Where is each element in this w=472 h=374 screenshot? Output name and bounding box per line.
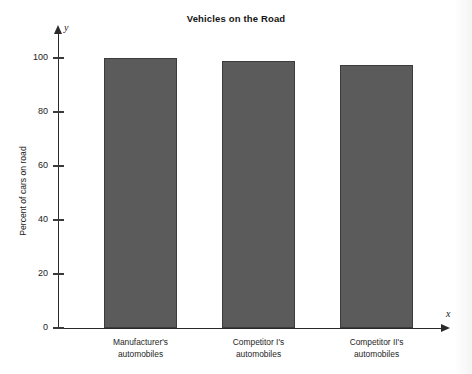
category-label-2: Competitor I'sautomobiles bbox=[196, 337, 322, 360]
y-axis-arrow-icon bbox=[54, 25, 62, 34]
y-axis-line bbox=[58, 33, 59, 328]
chart-title: Vehicles on the Road bbox=[0, 13, 472, 24]
y-tick-label-0: 0 bbox=[8, 322, 48, 332]
category-label-line: Competitor II's bbox=[314, 337, 440, 349]
bar-1 bbox=[104, 58, 177, 328]
y-tick-label-100: 100 bbox=[8, 52, 48, 62]
y-tick-label-60: 60 bbox=[8, 160, 48, 170]
bar-chart: Vehicles on the Road y x Percent of cars… bbox=[0, 0, 472, 374]
y-tick-60 bbox=[53, 165, 64, 166]
category-label-line: automobiles bbox=[78, 349, 204, 361]
y-tick-label-40: 40 bbox=[8, 214, 48, 224]
category-label-line: Manufacturer's bbox=[78, 337, 204, 349]
category-label-3: Competitor II'sautomobiles bbox=[314, 337, 440, 360]
y-tick-label-80: 80 bbox=[8, 106, 48, 116]
y-tick-label-20: 20 bbox=[8, 268, 48, 278]
y-tick-100 bbox=[53, 57, 64, 58]
category-label-line: automobiles bbox=[314, 349, 440, 361]
category-label-line: automobiles bbox=[196, 349, 322, 361]
y-tick-20 bbox=[53, 273, 64, 274]
y-axis-title: Percent of cars on road bbox=[18, 101, 28, 281]
x-axis-line bbox=[58, 328, 443, 329]
y-tick-40 bbox=[53, 219, 64, 220]
x-axis-marker: x bbox=[446, 308, 450, 319]
y-tick-0 bbox=[53, 327, 64, 328]
category-label-line: Competitor I's bbox=[196, 337, 322, 349]
bar-3 bbox=[340, 65, 413, 328]
y-tick-80 bbox=[53, 111, 64, 112]
category-label-1: Manufacturer'sautomobiles bbox=[78, 337, 204, 360]
y-axis-marker: y bbox=[64, 22, 68, 33]
bar-2 bbox=[222, 61, 295, 328]
x-axis-arrow-icon bbox=[441, 324, 450, 332]
